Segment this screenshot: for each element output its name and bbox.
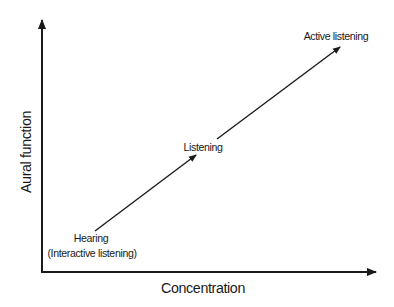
- aural-function-diagram: Aural function Concentration Hearing (In…: [0, 0, 394, 307]
- y-axis-label: Aural function: [17, 111, 35, 193]
- stage-label-listening: Listening: [183, 141, 222, 153]
- stage-sublabel-hearing: (Interactive listening): [47, 247, 136, 259]
- stage-label-active-listening: Active listening: [304, 30, 369, 42]
- stage-label-hearing: Hearing: [74, 232, 108, 244]
- arrow-hearing-to-listening: [95, 155, 196, 231]
- diagram-graphics: [0, 0, 394, 307]
- x-axis-label: Concentration: [161, 279, 245, 297]
- arrow-listening-to-active: [217, 47, 340, 139]
